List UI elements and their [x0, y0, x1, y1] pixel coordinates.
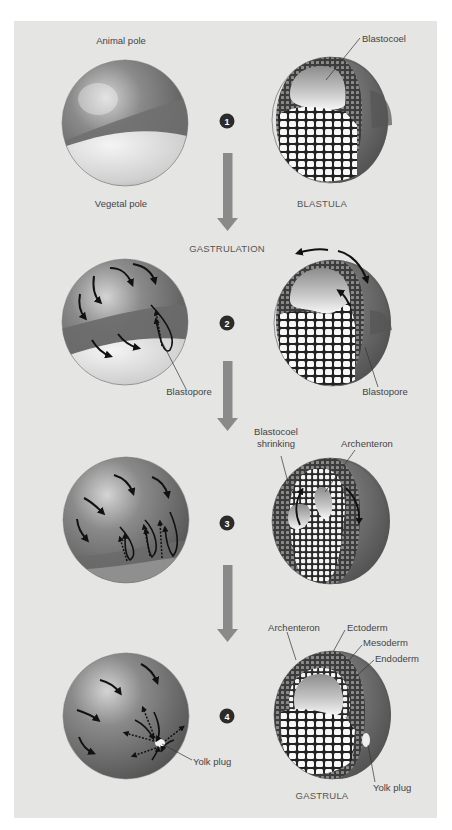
blastocoel-label: Blastocoel [362, 33, 406, 44]
yolk-plug-left [155, 739, 165, 747]
stage-4-left-sphere [63, 653, 189, 779]
blastopore-label-right: Blastopore [362, 386, 407, 397]
archenteron-label-3: Archenteron [341, 438, 393, 449]
blastula-cutaway [272, 55, 392, 183]
animal-pole-label: Animal pole [96, 35, 146, 46]
gastrula-label: GASTRULA [296, 790, 349, 801]
yolk-plug-label-left: Yolk plug [193, 756, 231, 767]
stage-4: Yolk plug Archenteron Ectoderm Mesoderm … [63, 622, 419, 801]
blastula-label: BLASTULA [297, 198, 348, 209]
gastrulation-diagram: Animal pole Vegetal pole Blastocoel BLAS… [0, 0, 452, 830]
ectoderm-label: Ectoderm [347, 622, 388, 633]
blastocoel-shrinking-label-line1: Blastocoel [254, 426, 298, 437]
blastocoel-shrinking-label-line2: shrinking [257, 438, 295, 449]
archenteron-label-4: Archenteron [268, 622, 320, 633]
ectoderm-leader [333, 630, 345, 652]
stage-3-left-sphere [62, 457, 190, 600]
stage-2-left-sphere [55, 259, 195, 400]
step-number-1: 1 [224, 117, 229, 127]
stage-1-left-sphere [55, 60, 195, 200]
step-number-4: 4 [224, 712, 229, 722]
archenteron-leader-4 [287, 632, 296, 660]
vegetal-pole-label: Vegetal pole [95, 198, 147, 209]
flow-arrow-2 [217, 361, 238, 431]
mid-gastrula-cutaway [272, 456, 390, 588]
gastrula-cutaway [273, 650, 391, 780]
flow-arrow-1 [217, 153, 238, 231]
gastrulation-label: GASTRULATION [189, 243, 265, 254]
endoderm-label: Endoderm [375, 653, 419, 664]
early-gastrula-cutaway [274, 258, 392, 386]
flow-arrow-3 [217, 565, 238, 642]
mesoderm-label: Mesoderm [363, 637, 408, 648]
yolk-plug-label-right: Yolk plug [373, 782, 411, 793]
step-number-2: 2 [224, 319, 229, 329]
blastopore-label-left: Blastopore [166, 386, 211, 397]
yolk-plug-right [362, 733, 370, 747]
step-number-3: 3 [224, 519, 229, 529]
